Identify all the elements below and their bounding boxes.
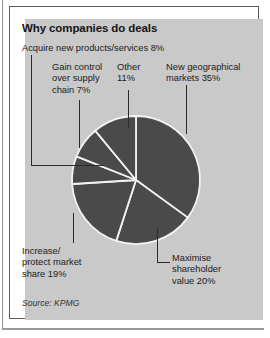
callout-gain-line3: chain 7%: [52, 85, 102, 96]
callout-gain-line2: over supply: [52, 73, 102, 84]
chart-title: Why companies do deals: [22, 22, 157, 34]
callout-maximise-line2: shareholder: [172, 264, 221, 275]
callout-newgeo-line1: New geographical: [166, 62, 240, 73]
callout-acquire-new-products: Acquire new products/services 8%: [22, 43, 164, 54]
callout-other-line2: 11%: [117, 73, 140, 84]
callout-other-line1: Other: [117, 62, 140, 73]
callout-maximise-line3: value 20%: [172, 276, 221, 287]
callout-newgeo-line2: markets 35%: [166, 73, 240, 84]
callout-acquire-text: Acquire new products/services 8%: [22, 43, 164, 53]
callout-other: Other 11%: [117, 62, 140, 85]
leader-line-maximise: [157, 228, 170, 262]
callout-increase-protect-market-share: Increase/ protect market share 19%: [22, 246, 81, 280]
figure-root: Why companies do deals Acquire new produ…: [0, 0, 270, 338]
callout-gain-control-supply-chain: Gain control over supply chain 7%: [52, 62, 102, 96]
callout-maximise-shareholder-value: Maximise shareholder value 20%: [172, 253, 221, 287]
callout-gain-line1: Gain control: [52, 62, 102, 73]
callout-maximise-line1: Maximise: [172, 253, 221, 264]
callout-increase-line3: share 19%: [22, 269, 81, 280]
callout-new-geographical-markets: New geographical markets 35%: [166, 62, 240, 85]
callout-increase-line2: protect market: [22, 257, 81, 268]
callout-increase-line1: Increase/: [22, 246, 81, 257]
source-note: Source: KPMG: [22, 298, 79, 308]
